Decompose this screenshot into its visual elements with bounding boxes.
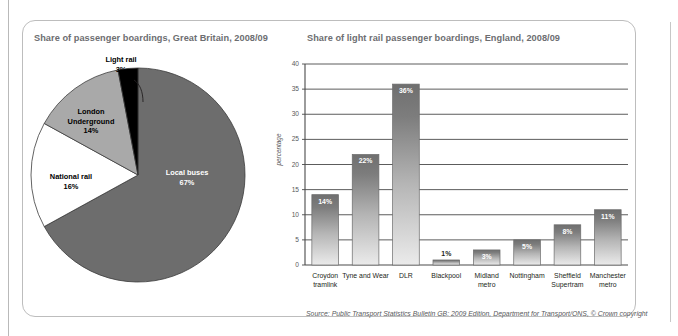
- page-margin-rule-right: [670, 22, 671, 322]
- x-category-label-manchester-metro: Manchestermetro: [582, 271, 634, 289]
- y-tick-label-0: 0: [283, 261, 299, 268]
- pie-slice-value-light-rail: 3%: [84, 65, 158, 75]
- y-tick-label-40: 40: [283, 60, 299, 67]
- bar-chart-axes: [302, 64, 305, 265]
- x-category-label-line: metro: [582, 280, 634, 289]
- y-tick-label-15: 15: [283, 186, 299, 193]
- y-tick-label-30: 30: [283, 110, 299, 117]
- pie-chart-title: Share of passenger boardings, Great Brit…: [34, 33, 268, 43]
- bar-dlr: [393, 84, 420, 265]
- bar-value-label-croydon-tramlink: 14%: [307, 198, 343, 205]
- source-copyright: Crown copyright: [598, 310, 648, 317]
- page-margin-rule-left: [8, 0, 9, 336]
- bar-chart-bars: [312, 84, 621, 265]
- x-category-label-line: tramlink: [299, 280, 351, 289]
- source-publisher: Department for Transport/ONS: [493, 310, 587, 317]
- bar-value-label-manchester-metro: 11%: [590, 213, 626, 220]
- pie-slice-name-london-underground-line2: Underground: [48, 117, 134, 127]
- bar-value-label-blackpool: 1%: [428, 250, 464, 257]
- bar-chart-title: Share of light rail passenger boardings,…: [307, 33, 560, 43]
- bar-value-label-nottingham: 5%: [509, 243, 545, 250]
- source-suffix: , ©: [587, 310, 598, 317]
- y-tick-label-20: 20: [283, 161, 299, 168]
- bar-chart: percentage 0510152025303540 Croydontraml…: [270, 50, 630, 305]
- bar-value-label-midland-metro: 3%: [469, 253, 505, 260]
- bar-croydon-tramlink: [312, 195, 339, 265]
- pie-slice-name-local-buses: Local buses: [150, 168, 224, 178]
- source-note: Source: Public Transport Statistics Bull…: [306, 310, 648, 317]
- pie-slice-label-light-rail: Light rail 3%: [84, 55, 158, 74]
- pie-slice-value-local-buses: 67%: [150, 178, 224, 188]
- pie-slice-value-national-rail: 16%: [28, 182, 114, 192]
- pie-slice-label-local-buses: Local buses 67%: [150, 168, 224, 187]
- pie-slice-label-london-underground: London Underground 14%: [48, 107, 134, 136]
- x-category-label-line: metro: [461, 280, 513, 289]
- source-prefix: Source: Public Transport Statistics Bull…: [306, 310, 493, 317]
- y-tick-label-5: 5: [283, 236, 299, 243]
- pie-slice-label-national-rail: National rail 16%: [28, 172, 114, 191]
- pie-slice-name-light-rail: Light rail: [84, 55, 158, 65]
- bar-tyne-and-wear: [352, 154, 379, 265]
- bar-blackpool: [433, 260, 460, 265]
- y-tick-label-10: 10: [283, 211, 299, 218]
- pie-slice-value-london-underground: 14%: [48, 126, 134, 136]
- pie-slice-name-london-underground-line1: London: [48, 107, 134, 117]
- bar-value-label-dlr: 36%: [388, 87, 424, 94]
- pie-slice-name-national-rail: National rail: [28, 172, 114, 182]
- x-category-label-line: Manchester: [582, 271, 634, 280]
- pie-chart: Light rail 3% London Underground 14% Nat…: [26, 50, 276, 300]
- bar-chart-svg: [270, 50, 630, 305]
- bar-value-label-sheffield-supertram: 8%: [549, 228, 585, 235]
- bar-value-label-tyne-and-wear: 22%: [348, 157, 384, 164]
- y-tick-label-35: 35: [283, 85, 299, 92]
- y-tick-label-25: 25: [283, 135, 299, 142]
